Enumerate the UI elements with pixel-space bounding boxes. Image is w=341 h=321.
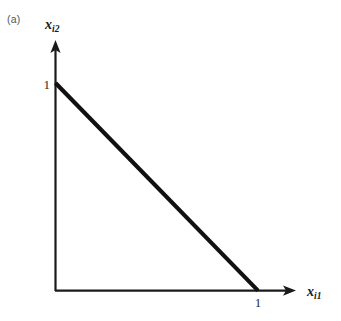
plot-area: [0, 0, 341, 321]
budget-constraint-line: [56, 83, 259, 291]
figure-panel-a: (a) xi2 xi1 1 1: [0, 0, 341, 321]
